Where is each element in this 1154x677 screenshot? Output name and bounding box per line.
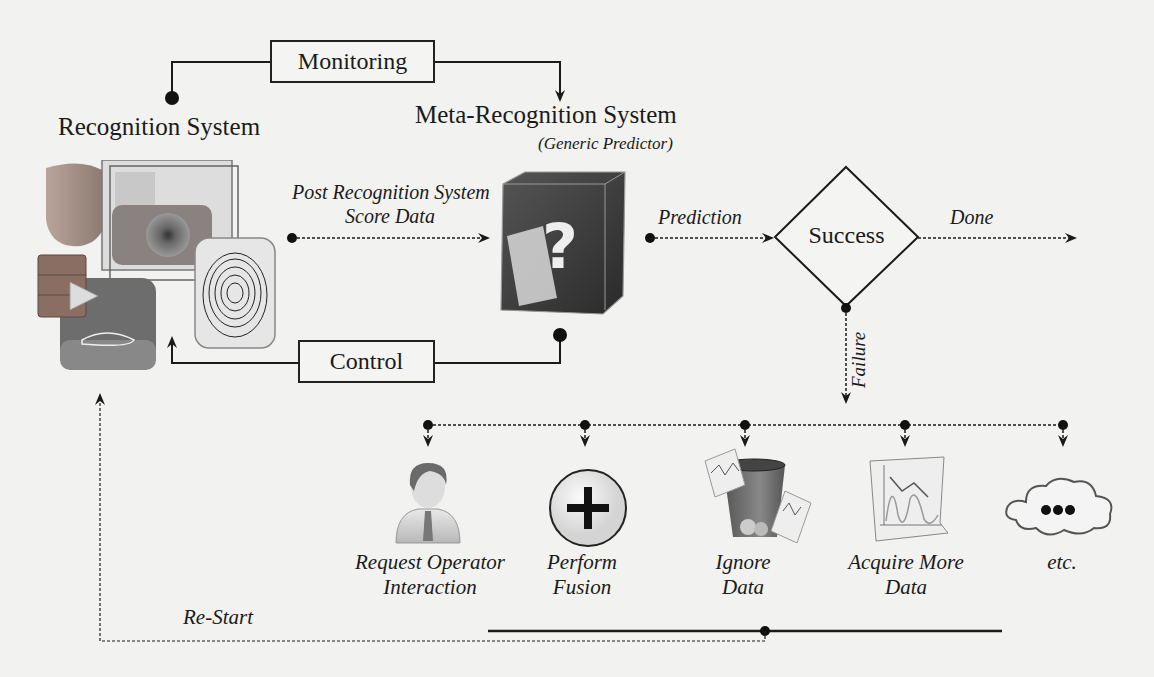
recognition-system-title: Recognition System [58, 113, 260, 141]
trash-icon [693, 443, 813, 547]
prediction-label: Prediction [658, 206, 742, 229]
control-box: Control [298, 340, 435, 383]
action-bus [423, 420, 1068, 445]
done-label: Done [950, 206, 993, 229]
black-box-cube-icon: ? [495, 170, 629, 320]
biometrics-collage-icon [20, 160, 280, 375]
cloud-ellipsis-icon [1000, 470, 1120, 544]
restart-label: Re-Start [183, 605, 253, 630]
chart-sheet-icon [868, 455, 948, 549]
score-data-label: Post Recognition System Score Data [292, 180, 488, 228]
failure-label: Failure [848, 284, 870, 340]
recognition-system-collage [20, 160, 280, 375]
action-label-operator: Request OperatorInteraction [355, 550, 505, 600]
plus-circle-icon [547, 467, 629, 553]
action-label-acquire: Acquire MoreData [848, 550, 964, 600]
success-label: Success [775, 222, 918, 249]
score-data-arrow [287, 233, 488, 243]
person-icon [390, 455, 466, 549]
meta-system-title: Meta-Recognition System [415, 101, 677, 129]
svg-text:?: ? [542, 210, 578, 283]
action-label-etc: etc. [1047, 550, 1077, 575]
action-label-fusion: PerformFusion [547, 550, 617, 600]
meta-recognition-cube: ? [495, 170, 629, 320]
action-label-ignore: IgnoreData [715, 550, 770, 600]
monitoring-box: Monitoring [270, 40, 435, 83]
meta-system-subtitle: (Generic Predictor) [538, 134, 673, 154]
prediction-arrow [645, 233, 772, 243]
